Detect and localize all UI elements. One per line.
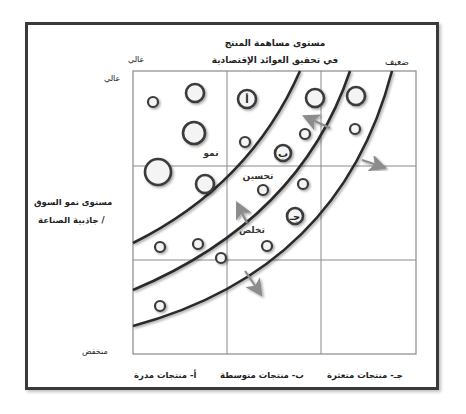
bubble-circle [193, 239, 203, 249]
bubble-circle [300, 129, 310, 139]
y-axis-title-line1: مستوى نمو السوق [34, 197, 112, 207]
y-axis-low-label: منخفض [82, 347, 108, 356]
product-bubble [300, 129, 310, 139]
product-bubble [298, 179, 308, 189]
bubble-circle [262, 241, 272, 251]
product-bubble [155, 301, 165, 311]
bubble-circle [155, 301, 165, 311]
bubble-label: أ [245, 93, 248, 105]
bubble-label: جـ [289, 211, 301, 222]
movement-arrow-icon [238, 205, 247, 223]
bubble-circle [196, 175, 214, 193]
zone-curves [133, 71, 392, 326]
product-bubble [240, 137, 250, 147]
category-b-label: ب- منتجات متوسطة [220, 370, 304, 380]
y-axis-title-line2: / جاذبية الصناعة [38, 215, 105, 225]
diagram-canvas: أبجـ نموتحسينتخلص مستوى مساهمة المنتج في… [0, 0, 466, 414]
bubble-circle [298, 179, 308, 189]
product-bubble [183, 122, 205, 144]
movement-arrows [238, 117, 383, 293]
bubble-circle [148, 97, 158, 107]
product-bubble [186, 84, 204, 102]
product-bubble [193, 239, 203, 249]
zone-label: تحسين [243, 171, 274, 182]
bubble-circle [155, 242, 165, 252]
bubble-circle [347, 87, 365, 105]
product-bubble [262, 241, 272, 251]
x-axis-low-label: ضعيف [385, 57, 409, 67]
product-bubble [258, 185, 268, 195]
chart-title-line1: مستوى مساهمة المنتج [200, 38, 350, 48]
zone-label: تخلص [239, 225, 265, 236]
movement-arrow-icon [306, 117, 330, 128]
product-bubble [347, 87, 365, 105]
category-c-label: جـ- منتجات متعثرة [327, 370, 403, 380]
bubble-circle [145, 159, 171, 185]
bubble-circle [240, 137, 250, 147]
y-axis-high-label: عالي [104, 74, 120, 83]
product-bubble: جـ [287, 208, 303, 224]
product-bubble [196, 175, 214, 193]
category-a-label: أ- منتجات مدرة [134, 370, 197, 380]
product-bubble: ب [275, 145, 291, 161]
zone-boundary-curve [133, 71, 392, 326]
product-bubble [216, 253, 226, 263]
product-bubble [350, 124, 360, 134]
bubble-circle [216, 253, 226, 263]
product-bubble [148, 97, 158, 107]
x-axis-high-label: عالي [128, 55, 144, 64]
product-bubble [306, 89, 324, 107]
product-bubble [145, 159, 171, 185]
bubble-circle [350, 124, 360, 134]
chart-title-line2: في تحقيق العوائد الإقتصادية [200, 55, 350, 65]
bubble-label: ب [278, 148, 288, 159]
zone-label: نمو [202, 148, 218, 159]
bubble-circle [186, 84, 204, 102]
bubble-circle [306, 89, 324, 107]
bubble-circle [258, 185, 268, 195]
bubble-circle [183, 122, 205, 144]
product-bubble [155, 242, 165, 252]
product-bubble: أ [238, 90, 256, 108]
